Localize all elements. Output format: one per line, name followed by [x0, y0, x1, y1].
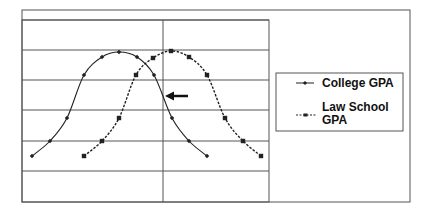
square-marker-icon: [169, 49, 173, 53]
square-marker-icon: [134, 73, 138, 77]
square-marker-icon: [151, 56, 155, 60]
square-marker-icon: [117, 116, 121, 120]
legend-label-law-line1: Law School: [322, 100, 389, 114]
legend-square-marker-icon: [304, 114, 308, 117]
square-marker-icon: [187, 55, 191, 59]
square-marker-icon: [223, 116, 227, 120]
legend-label-college: College GPA: [322, 76, 394, 90]
square-marker-icon: [205, 73, 209, 77]
legend: College GPA Law School GPA: [276, 73, 403, 131]
square-marker-icon: [82, 154, 86, 158]
square-marker-icon: [100, 139, 104, 143]
gpa-distribution-chart: College GPA Law School GPA: [0, 0, 430, 212]
square-marker-icon: [241, 139, 245, 143]
square-marker-icon: [259, 154, 263, 158]
legend-label-law-line2: GPA: [322, 113, 347, 127]
